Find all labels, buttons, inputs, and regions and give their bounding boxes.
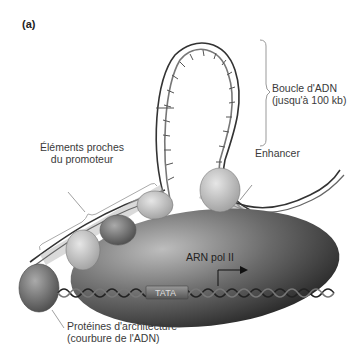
proximal-elements-label: Éléments proches du promoteur (40, 141, 124, 165)
dna-loop-label: Boucle d'ADN (jusqu'à 100 kb) (272, 82, 346, 106)
diagram-canvas (0, 0, 362, 352)
architecture-protein (19, 264, 59, 312)
panel-label: (a) (22, 18, 35, 30)
proximal-factor-3 (137, 191, 173, 219)
tata-label: TATA (155, 287, 176, 299)
loop-bracket (260, 40, 270, 146)
rna-pol-ii-label: ARN pol II (186, 251, 234, 263)
architecture-proteins-label: Protéines d'architecture (courbure de l'… (67, 320, 177, 344)
enhancer-dna (230, 170, 340, 208)
enhancer-activator-protein (200, 168, 240, 212)
proximal-factor-2 (100, 215, 136, 245)
proximal-factor-1 (66, 230, 100, 270)
enhancer-label: Enhancer (255, 147, 300, 159)
